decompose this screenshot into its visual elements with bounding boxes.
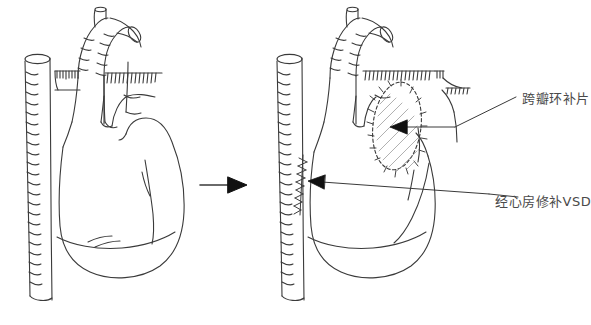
coronary-arteries-left <box>142 160 154 244</box>
panel-postoperative <box>277 7 489 300</box>
label-transannular-patch: 跨瓣环补片 <box>522 88 590 107</box>
transition-arrow <box>200 177 247 193</box>
label-transatrial-vsd-repair: 经心房修补VSD <box>495 191 591 210</box>
ventricular-mass-right <box>308 133 435 278</box>
aorta-left <box>78 7 143 78</box>
pulmonary-branch-hatch-left <box>55 71 162 90</box>
right-ventricle-left <box>101 94 155 126</box>
ascending-aorta-right <box>314 76 356 152</box>
panel-preoperative <box>25 7 184 300</box>
patch-pointer-arrow <box>390 120 455 134</box>
ascending-aorta-left <box>63 76 104 147</box>
atrial-suture-line <box>294 155 307 215</box>
rvot-right <box>353 90 457 142</box>
svc-vessel-left <box>25 54 52 300</box>
pulmonary-branch-hatch-right <box>363 71 470 94</box>
ventricular-mass-left <box>57 118 184 278</box>
leader-line-patch <box>455 97 516 127</box>
aorta-right <box>330 7 395 78</box>
svc-vessel-right <box>277 54 304 300</box>
vsd-pointer-arrow <box>308 175 489 194</box>
leader-lines <box>455 97 518 197</box>
